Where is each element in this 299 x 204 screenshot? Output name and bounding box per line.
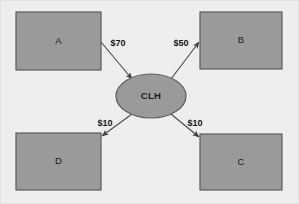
edge-label-hub-b: $50 bbox=[173, 38, 188, 48]
flow-diagram: A B D C CLH $70 $50 $10 $10 bbox=[0, 0, 299, 204]
edge-label-hub-d: $10 bbox=[97, 118, 112, 128]
edge-label-a-hub: $70 bbox=[110, 38, 125, 48]
node-label-b: B bbox=[238, 34, 244, 45]
node-label-d: D bbox=[55, 155, 62, 166]
node-group: A B D C CLH bbox=[16, 12, 282, 190]
node-label-a: A bbox=[55, 35, 62, 46]
edge-label-hub-c: $10 bbox=[187, 118, 202, 128]
diagram-canvas: A B D C CLH $70 $50 $10 $10 bbox=[0, 0, 299, 204]
node-label-hub: CLH bbox=[141, 90, 161, 101]
node-label-c: C bbox=[238, 156, 245, 167]
